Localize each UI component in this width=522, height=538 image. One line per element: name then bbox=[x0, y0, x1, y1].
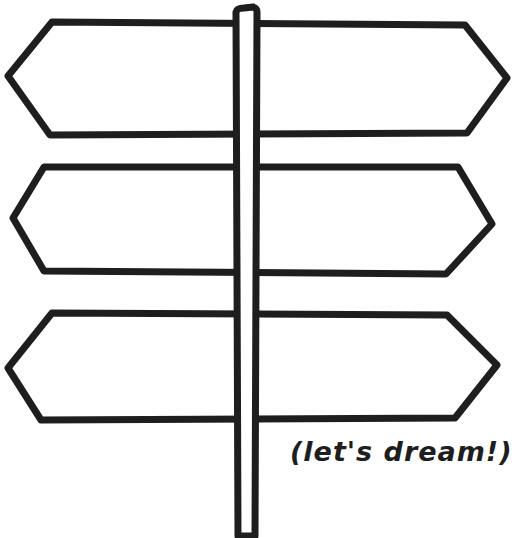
caption-text: (let's dream!) bbox=[290, 436, 513, 467]
signpost-pole bbox=[236, 7, 257, 536]
